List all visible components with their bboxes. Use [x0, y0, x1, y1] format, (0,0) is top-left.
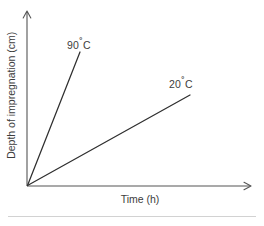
chart-figure: 90˚C 20˚C Time (h) Depth of impregnation… — [0, 0, 264, 226]
series-label-20c: 20˚C — [169, 76, 193, 90]
series-label-20c-unit: C — [185, 78, 193, 90]
series-line-20c — [28, 95, 191, 186]
series-label-90c-value: 90 — [67, 39, 79, 51]
y-axis-title-container: Depth of impregnation (cm) — [0, 0, 24, 190]
y-axis-title: Depth of impregnation (cm) — [7, 31, 18, 158]
series-label-90c-unit: C — [83, 39, 91, 51]
footer-divider — [8, 216, 256, 217]
series-label-20c-value: 20 — [169, 78, 181, 90]
series-label-90c: 90˚C — [67, 37, 91, 51]
x-axis-title: Time (h) — [0, 194, 264, 205]
series-line-90c — [28, 52, 81, 186]
